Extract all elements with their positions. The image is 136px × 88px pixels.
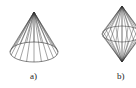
diagram-canvas: [0, 0, 136, 88]
cone-wireframe: [10, 12, 58, 62]
bicone-wireframe: [102, 6, 136, 62]
figure-label-a: a): [30, 72, 37, 81]
figure-label-b: b): [117, 72, 125, 81]
